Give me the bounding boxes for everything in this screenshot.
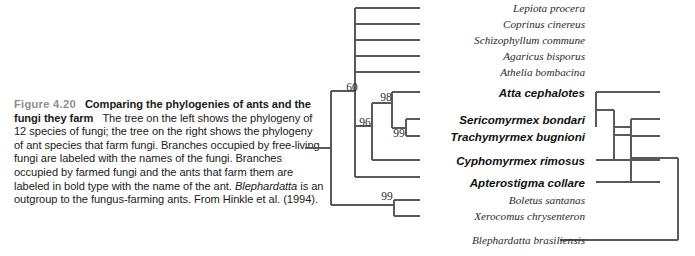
taxon-label: Schizophyllum commune: [474, 34, 585, 46]
taxon-label: Sericomyrmex bondari: [459, 113, 585, 126]
taxon-label: Apterostigma collare: [470, 176, 585, 189]
bootstrap-value: 60: [346, 81, 358, 93]
figure-panel: Figure 4.20Comparing the phylogenies of …: [0, 0, 695, 256]
phylogeny-svg: [0, 0, 695, 256]
bootstrap-value: 99: [393, 127, 405, 139]
taxon-label: Atta cephalotes: [499, 86, 585, 99]
taxon-label: Athelia bombacina: [500, 66, 585, 78]
bootstrap-value: 99: [381, 190, 393, 202]
fungi-tree: [305, 8, 420, 216]
taxon-label: Agaricus bisporus: [503, 50, 585, 62]
taxon-label: Boletus santanas: [509, 194, 585, 206]
bootstrap-value: 98: [380, 91, 392, 103]
taxon-label: Xerocomus chrysenteron: [474, 210, 585, 222]
phylogeny-diagram: [0, 0, 695, 256]
taxon-label: Lepiota procera: [513, 2, 585, 14]
taxon-label: Blephardatta brasiliensis: [472, 234, 585, 246]
bootstrap-value: 96: [359, 116, 371, 128]
taxon-label: Cyphomyrmex rimosus: [456, 154, 585, 167]
taxon-label: Coprinus cinereus: [503, 18, 585, 30]
taxon-label: Trachymyrmex bugnioni: [451, 130, 585, 143]
